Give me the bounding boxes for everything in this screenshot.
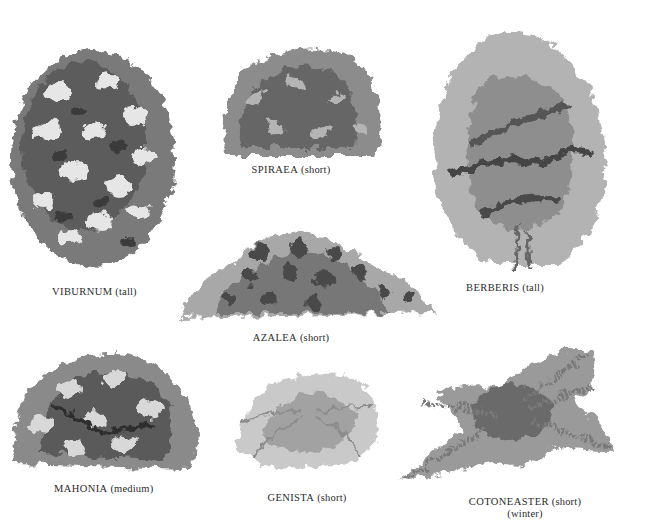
- spiraea-caption: SPIRAEA (short): [236, 164, 346, 175]
- plant-name: BERBERIS: [466, 282, 519, 293]
- plant-name: AZALEA: [253, 332, 297, 343]
- plant-name: SPIRAEA: [252, 164, 299, 175]
- plant-size: (short): [317, 492, 346, 503]
- mahonia-caption: MAHONIA (medium): [40, 483, 194, 494]
- plant-size: (tall): [522, 282, 544, 293]
- spiraea-illustration: [216, 38, 386, 163]
- plant-name: VIBURNUM: [52, 286, 112, 297]
- plant-note: (winter): [450, 508, 600, 520]
- azalea-illustration: [174, 218, 438, 322]
- plant-name: MAHONIA: [54, 483, 108, 494]
- genista-caption: GENISTA (short): [252, 492, 362, 503]
- berberis-illustration: [420, 24, 618, 276]
- plant-size: (short): [300, 332, 329, 343]
- azalea-caption: AZALEA (short): [236, 332, 346, 343]
- cotoneaster-illustration: [392, 342, 622, 490]
- plant-name: COTONEASTER: [469, 496, 549, 507]
- plant-size: (medium): [110, 483, 153, 494]
- plant-name: GENISTA: [267, 492, 314, 503]
- cotoneaster-caption: COTONEASTER (short) (winter): [450, 496, 600, 520]
- genista-illustration: [232, 366, 384, 476]
- plant-size: (short): [301, 164, 330, 175]
- mahonia-illustration: [4, 344, 204, 474]
- plant-size: (short): [552, 496, 581, 507]
- berberis-caption: BERBERIS (tall): [450, 282, 560, 293]
- viburnum-illustration: [4, 36, 182, 276]
- plant-size: (tall): [115, 286, 137, 297]
